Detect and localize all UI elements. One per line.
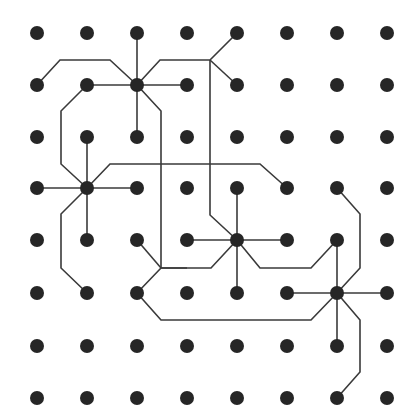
grid-dot bbox=[80, 339, 94, 353]
grid-dot bbox=[230, 130, 244, 144]
grid-dot bbox=[80, 233, 94, 247]
grid-dot bbox=[280, 181, 294, 195]
grid-dot bbox=[30, 130, 44, 144]
grid-dot bbox=[380, 233, 394, 247]
grid-dot bbox=[130, 391, 144, 405]
grid-dot bbox=[30, 339, 44, 353]
grid-dot bbox=[380, 78, 394, 92]
grid-dot bbox=[180, 233, 194, 247]
grid-dot bbox=[130, 339, 144, 353]
wire-n-137-293 bbox=[137, 240, 237, 293]
grid-dot bbox=[180, 78, 194, 92]
grid-dot bbox=[130, 233, 144, 247]
grid-dot bbox=[130, 130, 144, 144]
grid-dot bbox=[280, 233, 294, 247]
grid-dot bbox=[330, 391, 344, 405]
grid-dot bbox=[380, 130, 394, 144]
grid-dot bbox=[330, 78, 344, 92]
grid-dot bbox=[380, 339, 394, 353]
grid-dot bbox=[130, 181, 144, 195]
wiring-diagram bbox=[0, 0, 412, 419]
grid-dot bbox=[330, 26, 344, 40]
grid-dot bbox=[180, 181, 194, 195]
grid-dot bbox=[80, 78, 94, 92]
grid-dot bbox=[380, 181, 394, 195]
grid-dot bbox=[30, 181, 44, 195]
grid-dot bbox=[330, 130, 344, 144]
grid-dot bbox=[230, 78, 244, 92]
grid-dot bbox=[280, 286, 294, 300]
grid-dot bbox=[80, 391, 94, 405]
grid-dot bbox=[280, 130, 294, 144]
grid-dot bbox=[30, 233, 44, 247]
hub-node bbox=[230, 233, 244, 247]
grid-dot bbox=[130, 286, 144, 300]
grid-dot bbox=[280, 339, 294, 353]
grid-dot bbox=[330, 339, 344, 353]
grid-dot bbox=[80, 286, 94, 300]
grid-dot bbox=[180, 26, 194, 40]
hub-node bbox=[80, 181, 94, 195]
grid-dot bbox=[180, 339, 194, 353]
grid-dot bbox=[180, 391, 194, 405]
wire-h1-ur bbox=[137, 33, 237, 85]
grid-dot bbox=[230, 26, 244, 40]
dot-grid bbox=[30, 26, 394, 405]
grid-dot bbox=[330, 233, 344, 247]
grid-dot bbox=[30, 78, 44, 92]
grid-dot bbox=[380, 26, 394, 40]
grid-dot bbox=[330, 181, 344, 195]
grid-dot bbox=[130, 26, 144, 40]
grid-dot bbox=[380, 286, 394, 300]
hub-node bbox=[330, 286, 344, 300]
grid-dot bbox=[230, 339, 244, 353]
grid-dot bbox=[280, 26, 294, 40]
grid-dot bbox=[230, 391, 244, 405]
grid-dot bbox=[280, 391, 294, 405]
grid-dot bbox=[80, 26, 94, 40]
grid-dot bbox=[230, 286, 244, 300]
wire-h1-dr bbox=[137, 85, 187, 268]
grid-dot bbox=[230, 181, 244, 195]
grid-dot bbox=[80, 130, 94, 144]
grid-dot bbox=[30, 391, 44, 405]
grid-dot bbox=[30, 26, 44, 40]
grid-dot bbox=[180, 286, 194, 300]
grid-dot bbox=[280, 78, 294, 92]
grid-dot bbox=[180, 130, 194, 144]
grid-dot bbox=[30, 286, 44, 300]
hub-node bbox=[130, 78, 144, 92]
grid-dot bbox=[380, 391, 394, 405]
